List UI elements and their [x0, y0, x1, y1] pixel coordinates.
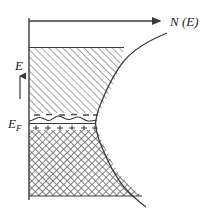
lower-crosshatched-region [29, 128, 149, 198]
fermi-level-label-sub: F [15, 123, 22, 133]
upper-hatched-region [29, 46, 139, 122]
fermi-level-label-main: E [7, 116, 16, 131]
dos-diagram: E E F N (E) [0, 0, 204, 224]
energy-axis-label: E [14, 58, 23, 73]
dos-figure-svg: E E F N (E) [0, 0, 204, 224]
dos-axis-label: N (E) [169, 14, 199, 29]
